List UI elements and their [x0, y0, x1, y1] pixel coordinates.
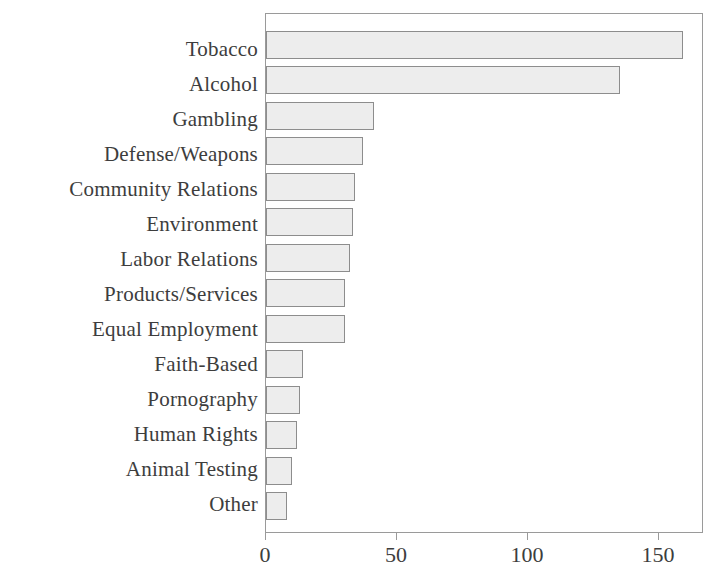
y-axis-tick-label: Equal Employment	[0, 319, 258, 340]
y-axis-tick-label: Labor Relations	[0, 249, 258, 270]
y-axis-tick-label: Environment	[0, 214, 258, 235]
bars-layer	[266, 14, 702, 532]
bar	[266, 31, 683, 59]
bar	[266, 208, 353, 236]
x-axis-tick-label: 50	[385, 543, 407, 567]
bar	[266, 102, 374, 130]
bar	[266, 66, 620, 94]
bar-chart: Tobacco Alcohol Gambling Defense/Weapons…	[0, 0, 717, 580]
y-axis-tick-label: Animal Testing	[0, 459, 258, 480]
x-axis-tick-mark	[396, 533, 397, 540]
x-axis-tick-mark	[658, 533, 659, 540]
bar	[266, 244, 350, 272]
bar	[266, 350, 303, 378]
bar	[266, 279, 345, 307]
x-axis-tick-label: 0	[260, 543, 271, 567]
bar	[266, 137, 363, 165]
y-axis-tick-label: Gambling	[0, 109, 258, 130]
y-axis-tick-label: Faith-Based	[0, 354, 258, 375]
y-axis-tick-label: Human Rights	[0, 424, 258, 445]
y-axis-tick-label: Community Relations	[0, 179, 258, 200]
plot-area	[265, 13, 703, 533]
y-axis-tick-label: Other	[0, 494, 258, 515]
x-axis-tick-label: 150	[642, 543, 675, 567]
y-axis-tick-label: Products/Services	[0, 284, 258, 305]
x-axis-tick-mark	[265, 533, 266, 540]
bar	[266, 421, 297, 449]
y-axis-tick-label: Pornography	[0, 389, 258, 410]
bar	[266, 173, 355, 201]
bar	[266, 457, 292, 485]
y-axis-category-labels: Tobacco Alcohol Gambling Defense/Weapons…	[0, 13, 262, 533]
x-axis: 0 50 100 150	[265, 533, 703, 580]
bar	[266, 492, 287, 520]
x-axis-tick-mark	[527, 533, 528, 540]
x-axis-tick-label: 100	[511, 543, 544, 567]
y-axis-tick-label: Tobacco	[0, 39, 258, 60]
bar	[266, 386, 300, 414]
bar	[266, 315, 345, 343]
y-axis-tick-label: Defense/Weapons	[0, 144, 258, 165]
y-axis-tick-label: Alcohol	[0, 74, 258, 95]
